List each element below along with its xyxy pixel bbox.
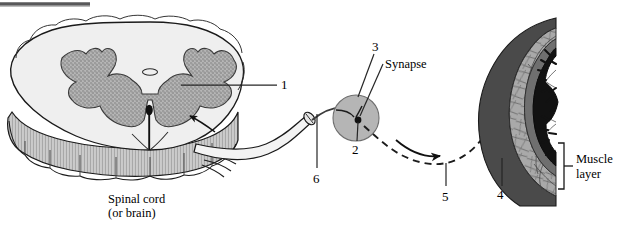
- callout-label-1: 1: [281, 78, 288, 93]
- postganglionic-pathway: [364, 126, 484, 186]
- conduction-arrow: [396, 140, 440, 156]
- synapse-region: [333, 54, 383, 141]
- callout-label-2: 2: [352, 143, 359, 158]
- callout-label-6: 6: [313, 172, 320, 187]
- callout-label-4: 4: [497, 188, 504, 203]
- muscle-wall-illustration: [479, 18, 573, 206]
- central-canal: [143, 69, 158, 75]
- callout-label-5: 5: [442, 190, 449, 205]
- muscle-layer-label-line2: layer: [576, 167, 601, 181]
- dashed-fiber: [364, 126, 484, 164]
- callout-label-3: 3: [372, 40, 379, 55]
- top-rule: [0, 4, 90, 6]
- diagram-svg: [0, 0, 629, 234]
- figure-canvas: 1 2 3 4 5 6 Synapse Muscle layer Spinal …: [0, 0, 629, 234]
- spinal-cord-label-line1: Spinal cord: [108, 192, 165, 206]
- muscle-layer-bracket: [558, 143, 573, 189]
- muscle-layer-label-line1: Muscle: [576, 152, 613, 166]
- spinal-cord-label-line2: (or brain): [108, 206, 156, 220]
- synapse-label: Synapse: [385, 57, 427, 71]
